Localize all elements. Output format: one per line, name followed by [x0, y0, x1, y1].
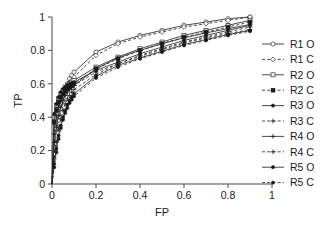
- series-marker: [53, 162, 56, 165]
- x-axis-title: FP: [155, 206, 169, 218]
- legend-label: R4 O: [290, 130, 315, 142]
- legend-marker: [271, 134, 276, 139]
- series-marker: [55, 151, 58, 154]
- series-line: [52, 17, 250, 184]
- series-line: [52, 22, 250, 184]
- series-line: [52, 20, 250, 184]
- y-tick-label: 0.2: [30, 144, 45, 156]
- series-marker: [248, 30, 251, 33]
- y-tick-label: 0.6: [30, 78, 45, 90]
- legend-label: R5 C: [290, 176, 314, 188]
- legend-marker: [271, 104, 274, 107]
- legend-label: R5 O: [290, 161, 315, 173]
- series-line: [52, 25, 250, 184]
- legend-marker: [271, 42, 275, 46]
- legend-entry-r2-o[interactable]: R2 O: [262, 69, 315, 81]
- series-r1-c: [52, 15, 253, 184]
- legend-entry-r3-c[interactable]: R3 C: [262, 115, 314, 127]
- legend-label: R3 O: [290, 99, 315, 111]
- series-marker: [57, 137, 60, 140]
- legend-label: R2 C: [290, 84, 314, 96]
- series-r3-o: [52, 24, 252, 184]
- series-marker: [70, 98, 73, 101]
- series-line: [52, 31, 250, 184]
- x-tick-label: 0.8: [221, 189, 236, 201]
- x-tick-label: 0.2: [89, 189, 104, 201]
- series-marker: [59, 126, 62, 129]
- legend-entry-r1-o[interactable]: R1 O: [262, 38, 315, 50]
- legend-entry-r5-c[interactable]: R5 C: [262, 176, 314, 188]
- series-marker: [72, 95, 75, 98]
- series-r1-o: [52, 15, 252, 184]
- series-marker: [53, 112, 56, 115]
- legend-marker: [271, 57, 276, 62]
- legend-label: R3 C: [290, 115, 314, 127]
- series-marker: [138, 57, 141, 60]
- series-marker: [59, 91, 62, 94]
- legend-label: R1 O: [290, 38, 315, 50]
- legend-entry-r4-o[interactable]: R4 O: [262, 130, 315, 142]
- series-r2-o: [52, 18, 252, 184]
- series-marker: [182, 44, 185, 47]
- series-marker: [53, 166, 56, 169]
- legend-marker: [271, 119, 276, 124]
- y-tick-label: 1: [39, 11, 45, 23]
- series-marker: [160, 50, 163, 53]
- series-marker: [94, 76, 97, 79]
- y-tick-label: 0.4: [30, 111, 45, 123]
- x-tick-label: 0.6: [177, 189, 192, 201]
- legend-entry-r4-c[interactable]: R4 C: [262, 146, 314, 158]
- series-marker: [116, 66, 119, 69]
- series-r4-o: [52, 22, 253, 184]
- roc-chart-figure: 00.20.40.60.8100.20.40.60.81FPTPR1 OR1 C…: [0, 0, 333, 228]
- y-axis-title: TP: [12, 93, 24, 107]
- x-tick-label: 1: [269, 189, 275, 201]
- legend-marker: [271, 73, 275, 77]
- x-tick-label: 0: [49, 189, 55, 201]
- legend-entry-r2-c[interactable]: R2 C: [262, 84, 314, 96]
- series-marker: [66, 106, 69, 109]
- legend-label: R4 C: [290, 146, 314, 158]
- series-r3-c: [52, 25, 253, 184]
- legend-marker: [271, 149, 276, 154]
- legend-entry-r3-o[interactable]: R3 O: [262, 99, 315, 111]
- series-marker: [226, 34, 229, 37]
- legend-marker: [271, 166, 274, 169]
- series-marker: [57, 134, 60, 137]
- series-line: [52, 30, 250, 184]
- series-marker: [61, 118, 64, 121]
- series-marker: [72, 70, 76, 74]
- legend-marker: [271, 88, 275, 92]
- legend-label: R2 O: [290, 69, 315, 81]
- series-marker: [204, 39, 207, 42]
- series-r4-c: [52, 27, 253, 184]
- series-line: [52, 17, 250, 184]
- series-line: [52, 30, 250, 184]
- legend-label: R1 C: [290, 53, 314, 65]
- series-marker: [57, 96, 60, 99]
- series-marker: [64, 111, 67, 114]
- y-tick-label: 0: [39, 178, 45, 190]
- legend-entry-r5-o[interactable]: R5 O: [262, 161, 315, 173]
- y-tick-label: 0.8: [30, 44, 45, 56]
- legend-entry-r1-c[interactable]: R1 C: [262, 53, 314, 65]
- legend-marker: [271, 181, 274, 184]
- x-tick-label: 0.4: [133, 189, 148, 201]
- series-line: [52, 25, 250, 184]
- series-marker: [55, 102, 58, 105]
- series-marker: [68, 101, 71, 104]
- roc-plot-canvas: 00.20.40.60.8100.20.40.60.81FPTPR1 OR1 C…: [0, 0, 333, 228]
